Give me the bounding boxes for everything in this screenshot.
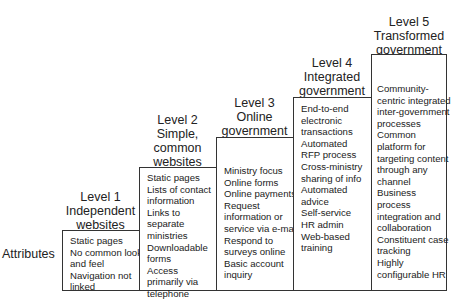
attribute: forms: [147, 253, 214, 265]
attribute: channel: [377, 176, 444, 188]
attribute: Downloadable: [147, 242, 214, 254]
level-5-title-line: Transformed: [371, 29, 447, 43]
attribute: inquiry: [224, 269, 291, 281]
level-5-title: Level 5 Transformed government: [371, 15, 447, 57]
attribute: Lists of contact: [147, 184, 214, 196]
attribute: processes: [377, 118, 444, 130]
attribute: tracking: [377, 245, 444, 257]
attribute: Basic account: [224, 258, 291, 270]
attribute: electronic: [301, 115, 369, 127]
attribute: targeting content: [377, 153, 444, 165]
level-2-title-line: Level 2: [139, 113, 216, 127]
attribute: Access: [147, 265, 214, 277]
attribute: through any: [377, 164, 444, 176]
attribute: telephone: [147, 288, 214, 300]
attribute: Cross-ministry: [301, 161, 369, 173]
attribute: configurable HR: [377, 269, 444, 281]
level-4-box: End-to-end electronic transactions Autom…: [293, 97, 372, 291]
level-5-title-line: Level 5: [371, 15, 447, 29]
attribute: Ministry focus: [224, 165, 291, 177]
level-3-title: Level 3 Online government: [216, 96, 293, 138]
level-2-title-line: common: [139, 141, 216, 155]
attribute: Request: [224, 200, 291, 212]
attribute: Common: [377, 129, 444, 141]
level-1-title-line: Level 1: [62, 190, 139, 204]
attribute: inter-government: [377, 106, 444, 118]
attribute: Automated: [301, 184, 369, 196]
level-4-title-line: Level 4: [293, 56, 371, 70]
attribute: surveys online: [224, 246, 291, 258]
attribute: Business: [377, 187, 444, 199]
attribute: collaboration: [377, 222, 444, 234]
level-4-title: Level 4 Integrated government: [293, 56, 371, 98]
attribute: Navigation not: [70, 270, 137, 282]
attribute: Links to: [147, 207, 214, 219]
attribute: and feel: [70, 258, 137, 270]
level-2-title: Level 2 Simple, common websites: [139, 113, 216, 169]
attribute: Static pages: [147, 172, 214, 184]
attribute: Community-: [377, 83, 444, 95]
attribute: HR admin: [301, 219, 369, 231]
attribute: Respond to: [224, 235, 291, 247]
level-2-box: Static pages Lists of contact informatio…: [139, 167, 217, 291]
attribute: Static pages: [70, 235, 137, 247]
attribute: separate: [147, 218, 214, 230]
attribute: information: [147, 195, 214, 207]
attribute: Constituent case: [377, 234, 444, 246]
attribute: linked: [70, 281, 137, 293]
level-1-title: Level 1 Independent websites: [62, 190, 139, 232]
level-4-title-line: government: [293, 84, 371, 98]
attribute: Automated: [301, 138, 369, 150]
attribute: primarily via: [147, 276, 214, 288]
row-label-attributes: Attributes: [2, 247, 55, 261]
level-1-box: Static pages No common look and feel Nav…: [62, 230, 140, 291]
attribute: integration and: [377, 211, 444, 223]
attribute: Online forms: [224, 177, 291, 189]
attribute: sharing of info: [301, 173, 369, 185]
attribute: RFP process: [301, 149, 369, 161]
attribute: Online payments: [224, 188, 291, 200]
attribute: information or: [224, 211, 291, 223]
level-4-title-line: Integrated: [293, 70, 371, 84]
attribute: service via e-mail: [224, 223, 291, 235]
attribute: centric integrated: [377, 95, 444, 107]
level-3-title-line: Online: [216, 110, 293, 124]
attribute: End-to-end: [301, 103, 369, 115]
attribute: advice: [301, 196, 369, 208]
attribute: training: [301, 242, 369, 254]
attribute: platform for: [377, 141, 444, 153]
attribute: Web-based: [301, 231, 369, 243]
level-5-box: Community- centric integrated inter-gove…: [371, 54, 447, 291]
level-1-title-line: Independent: [62, 204, 139, 218]
level-3-title-line: Level 3: [216, 96, 293, 110]
attribute: Self-service: [301, 207, 369, 219]
attribute: process: [377, 199, 444, 211]
level-3-title-line: government: [216, 124, 293, 138]
attribute: Highly: [377, 257, 444, 269]
attribute: transactions: [301, 126, 369, 138]
attribute: ministries: [147, 230, 214, 242]
level-2-title-line: Simple,: [139, 127, 216, 141]
level-3-box: Ministry focus Online forms Online payme…: [216, 137, 294, 291]
attribute: No common look: [70, 247, 137, 259]
